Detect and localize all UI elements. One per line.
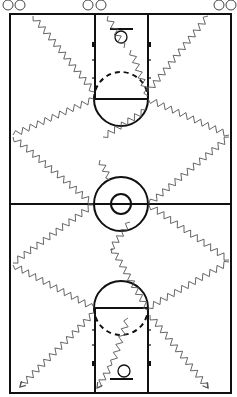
player-circle-player-3 — [83, 0, 93, 10]
dribble-path-right-sideline-to-bottom-elbow — [148, 261, 229, 308]
lane-block-mark — [148, 42, 151, 47]
dribble-path-bottom-key-to-bottom-basket — [111, 318, 129, 365]
dribble-path-left-bottom-elbow-to-corner — [20, 313, 94, 387]
dribble-path-left-sideline-to-bottom-elbow — [13, 265, 94, 308]
player-circle-player-1 — [3, 0, 13, 10]
dribble-path-middle-left-to-center — [99, 160, 110, 180]
basketball-court-diagram — [0, 0, 237, 397]
lane-block-mark — [148, 361, 151, 366]
dribble-path-middle-down-to-bottom-key — [111, 248, 148, 310]
dribble-path-center-to-middle-down — [110, 222, 130, 250]
dribble-path-left-center-to-sideline — [13, 205, 93, 263]
player-circle-player-4 — [96, 0, 106, 10]
lane-block-mark — [92, 42, 95, 47]
dribble-path-right-lane-up-to-elbow — [148, 16, 208, 92]
dribble-path-right-bottom-elbow-to-corner — [150, 315, 208, 388]
dribble-path-left-lane-down-to-elbow — [33, 16, 94, 92]
player-circle-player-6 — [226, 0, 236, 10]
free-throw-circle-dashed — [94, 308, 148, 335]
dribble-paths — [13, 16, 229, 388]
player-circle-player-2 — [15, 0, 25, 10]
lane-block-mark — [92, 361, 95, 366]
dribble-path-right-sideline-to-center — [149, 137, 229, 204]
dribble-path-left-sideline-to-center — [13, 137, 93, 204]
dribble-path-right-center-to-sideline — [149, 205, 229, 260]
player-circle-player-5 — [214, 0, 224, 10]
dribble-path-bottom-basket-to-corner — [97, 365, 112, 388]
players — [3, 0, 236, 10]
dribble-path-right-elbow-to-sideline — [148, 99, 229, 136]
dribble-path-left-elbow-to-sideline — [13, 98, 94, 135]
hoop-circle — [118, 365, 130, 377]
